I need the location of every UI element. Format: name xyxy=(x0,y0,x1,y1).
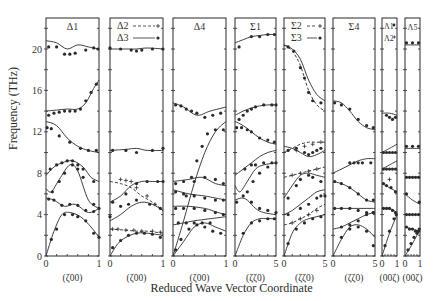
legend-label: Σ3 xyxy=(291,32,302,43)
panel-label: Σ1 xyxy=(250,21,261,32)
y-tick-label: 16 xyxy=(32,85,42,96)
panel-7: Λ1Λ201(00ζ) xyxy=(380,18,400,284)
panel-label: Δ1 xyxy=(67,21,78,32)
panel-2: Δ2Δ301(ζ00) xyxy=(108,18,166,284)
legend-label: Δ3 xyxy=(117,32,128,43)
x-tick-label: 0 xyxy=(44,258,49,269)
panel-1: Δ101(ζ00) xyxy=(44,18,102,284)
x-tick-label: 0 xyxy=(331,258,336,269)
x-tick-label: 1 xyxy=(418,258,423,269)
y-tick-label: 12 xyxy=(32,126,42,137)
x-tick-label: 5 xyxy=(373,258,378,269)
panel-4: Σ105(ζζ0) xyxy=(233,18,279,284)
legend-label: Λ2 xyxy=(384,34,394,43)
legend-label: Λ1 xyxy=(384,22,394,31)
legend-label: Δ2 xyxy=(117,20,128,31)
panel-label: Λ5 xyxy=(408,23,418,32)
x-tick-label: 1 xyxy=(224,258,229,269)
x-tick-label: 0 xyxy=(380,258,385,269)
x-tick-label: 1 xyxy=(161,258,166,269)
x-tick-label: 0 xyxy=(171,258,176,269)
x-tick-label: 5 xyxy=(323,258,328,269)
y-tick-label: 8 xyxy=(37,168,42,179)
y-tick-label: 20 xyxy=(32,44,42,55)
y-tick-label: 4 xyxy=(37,209,42,220)
x-tick-label: 1 xyxy=(395,258,400,269)
panel-5: Σ2Σ305(ζζ0) xyxy=(282,18,328,284)
x-tick-label: 0 xyxy=(403,258,408,269)
y-axis-label: Frequency (THz) xyxy=(6,67,21,150)
panel-8: Λ501(00ζ) xyxy=(403,18,423,284)
x-tick-label: 5 xyxy=(274,258,279,269)
panel-3: Δ401(ζ00) xyxy=(171,18,229,284)
panel-label: Σ4 xyxy=(349,21,360,32)
x-tick-label: 0 xyxy=(233,258,238,269)
legend-label: Σ2 xyxy=(291,20,302,31)
y-tick-label: 0 xyxy=(37,251,42,262)
panel-label: Δ4 xyxy=(194,21,205,32)
x-tick-label: 0 xyxy=(282,258,287,269)
panel-6: Σ405(ζζ0) xyxy=(331,18,378,284)
x-axis-label: Reduced Wave Vector Coordinate xyxy=(0,281,443,296)
x-tick-label: 1 xyxy=(97,258,102,269)
phonon-dispersion-chart: Δ101(ζ00)Δ2Δ301(ζ00)Δ401(ζ00)Σ105(ζζ0)Σ2… xyxy=(0,0,443,301)
x-tick-label: 0 xyxy=(108,258,113,269)
